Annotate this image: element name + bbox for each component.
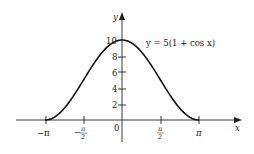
y-tick-8: 8 [112, 52, 117, 62]
y-tick-4: 4 [112, 84, 117, 94]
x-tick-half-pi-num: π [157, 125, 163, 133]
x-tick-neg-pi: −π [37, 128, 50, 138]
y-axis-label: y [112, 12, 118, 22]
x-tick-pi: π [195, 128, 202, 138]
x-tick-half-pi-den: 2 [157, 133, 162, 141]
x-tick-neg-half-pi-den: 2 [80, 133, 85, 141]
origin-label: 0 [114, 123, 119, 133]
x-axis-label: x [235, 123, 240, 133]
y-axis-arrow-icon [119, 12, 125, 20]
cardioid-projection-chart: y x 10 8 6 4 2 −π − π 2 0 π 2 π y = 5(1 … [0, 0, 254, 154]
y-tick-10: 10 [106, 36, 117, 46]
y-tick-6: 6 [112, 68, 117, 78]
y-tick-2: 2 [112, 100, 117, 110]
x-tick-neg-half-pi-num: π [80, 125, 86, 133]
equation-annotation: y = 5(1 + cos x) [145, 38, 215, 48]
